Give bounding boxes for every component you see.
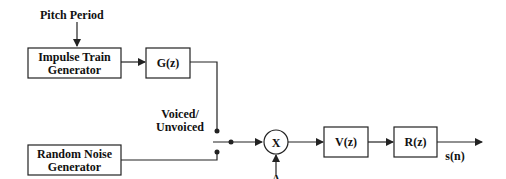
multiplier-node: X — [264, 130, 288, 154]
radiation-filter-block: R(z) — [394, 127, 437, 157]
impulse-train-generator-block: Impulse Train Generator — [28, 48, 121, 78]
noise-output-wire — [121, 153, 217, 160]
switch-pivot-dot — [229, 140, 234, 145]
random-noise-generator-block: Random Noise Generator — [28, 145, 121, 175]
vocal-tract-filter-block: V(z) — [324, 127, 368, 157]
svg-text:R(z): R(z) — [405, 135, 427, 149]
svg-text:G(z): G(z) — [157, 56, 180, 70]
svg-text:Generator: Generator — [48, 160, 102, 174]
switch-label-voiced: Voiced/ — [161, 107, 199, 121]
output-label: s(n) — [445, 149, 464, 163]
pitch-period-label: Pitch Period — [40, 8, 104, 22]
svg-text:Generator: Generator — [48, 63, 102, 77]
gain-label: A — [272, 172, 281, 179]
glottal-filter-block: G(z) — [146, 48, 190, 78]
svg-text:X: X — [272, 136, 281, 150]
svg-text:Random Noise: Random Noise — [37, 147, 113, 161]
switch-label-unvoiced: Unvoiced — [156, 120, 204, 134]
svg-text:Impulse Train: Impulse Train — [38, 50, 111, 64]
svg-text:V(z): V(z) — [335, 135, 357, 149]
speech-model-diagram: Pitch Period Impulse Train Generator G(z… — [0, 0, 506, 179]
voiced-contact-dot — [215, 129, 220, 134]
